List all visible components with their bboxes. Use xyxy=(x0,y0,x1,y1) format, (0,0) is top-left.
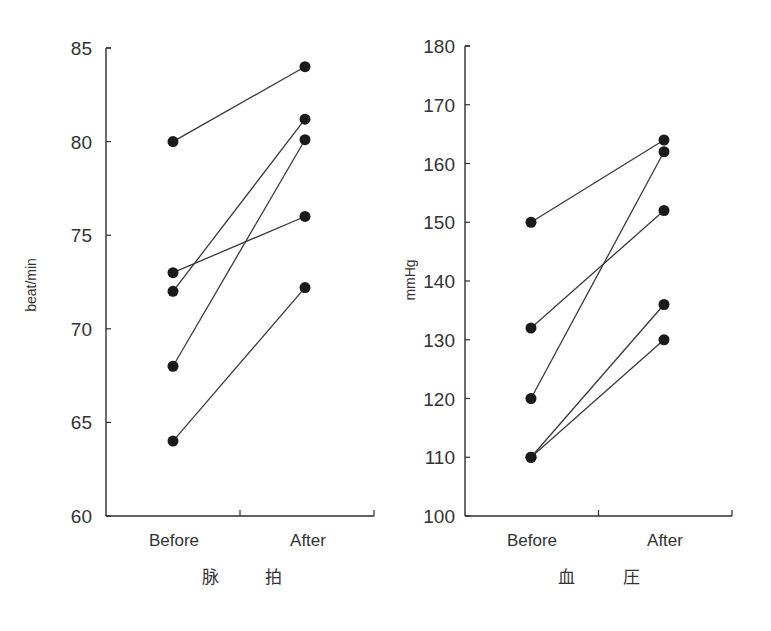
pulse-series-line xyxy=(173,119,305,291)
pulse-series-line xyxy=(173,67,305,142)
pulse-point-before xyxy=(168,361,179,372)
bp-x-label-before: Before xyxy=(507,531,557,550)
chart-canvas: 606570758085 beat/min Before After 脉 拍 1… xyxy=(0,0,771,631)
pulse-y-tick-label: 70 xyxy=(71,319,92,340)
pulse-point-after xyxy=(300,61,311,72)
bp-y-ticks: 100110120130140150160170180 xyxy=(423,36,470,527)
bp-series-line xyxy=(531,305,664,458)
pulse-point-after xyxy=(300,114,311,125)
bp-title-char-2: 圧 xyxy=(623,567,640,587)
pulse-point-before xyxy=(168,136,179,147)
bp-point-before xyxy=(526,217,537,228)
pulse-y-tick-label: 85 xyxy=(71,38,92,59)
bp-y-tick-label: 180 xyxy=(423,36,455,57)
pulse-y-tick-label: 60 xyxy=(71,506,92,527)
pulse-series-line xyxy=(173,216,305,272)
pulse-title-char-1: 脉 xyxy=(202,567,219,587)
pulse-point-after xyxy=(300,211,311,222)
pulse-point-after xyxy=(300,134,311,145)
bp-y-tick-label: 170 xyxy=(423,95,455,116)
pulse-title-char-2: 拍 xyxy=(265,567,282,587)
pulse-chart: 606570758085 beat/min Before After 脉 拍 xyxy=(23,38,374,587)
bp-y-tick-label: 140 xyxy=(423,271,455,292)
pulse-y-tick-label: 65 xyxy=(71,412,92,433)
bp-point-before xyxy=(526,323,537,334)
bp-y-tick-label: 110 xyxy=(425,447,455,468)
bp-y-axis-title: mmHg xyxy=(402,259,418,300)
pulse-point-before xyxy=(168,436,179,447)
blood-pressure-chart: 100110120130140150160170180 mmHg Before … xyxy=(402,36,732,587)
bp-y-tick-label: 100 xyxy=(423,506,455,527)
bp-y-tick-label: 130 xyxy=(423,330,455,351)
pulse-point-after xyxy=(300,282,311,293)
pulse-point-before xyxy=(168,267,179,278)
bp-x-label-after: After xyxy=(647,531,683,550)
pulse-series-line xyxy=(173,140,305,367)
bp-point-after xyxy=(659,334,670,345)
pulse-y-ticks: 606570758085 xyxy=(71,38,111,527)
pulse-point-before xyxy=(168,286,179,297)
pulse-y-tick-label: 80 xyxy=(71,132,92,153)
bp-point-after xyxy=(659,146,670,157)
bp-series-line xyxy=(531,140,664,222)
bp-y-tick-label: 120 xyxy=(423,389,455,410)
bp-y-tick-label: 150 xyxy=(423,212,455,233)
pulse-x-label-after: After xyxy=(290,531,326,550)
bp-point-after xyxy=(659,299,670,310)
bp-point-before xyxy=(526,393,537,404)
bp-series-line xyxy=(531,340,664,458)
bp-point-after xyxy=(659,205,670,216)
pulse-series xyxy=(168,61,311,446)
bp-axes xyxy=(465,46,732,516)
bp-series xyxy=(526,135,670,463)
pulse-series-line xyxy=(173,288,305,442)
pulse-axes xyxy=(106,48,374,516)
pulse-y-tick-label: 75 xyxy=(71,225,92,246)
bp-y-tick-label: 160 xyxy=(423,154,455,175)
bp-series-line xyxy=(531,152,664,399)
bp-point-after xyxy=(659,135,670,146)
pulse-x-label-before: Before xyxy=(149,531,199,550)
bp-series-line xyxy=(531,211,664,329)
bp-point-before xyxy=(526,452,537,463)
pulse-y-axis-title: beat/min xyxy=(23,258,39,312)
bp-title-char-1: 血 xyxy=(558,567,575,587)
